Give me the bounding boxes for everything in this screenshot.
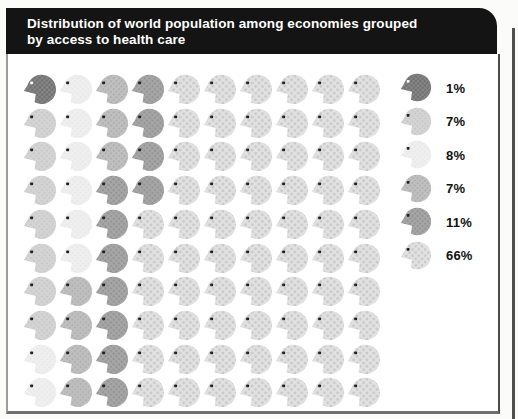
population-face-r5-c6 (203, 208, 237, 242)
population-face-r10-c6 (203, 376, 237, 410)
chart-title-bar: Distribution of world population among e… (6, 8, 497, 54)
legend-face-icon (400, 139, 432, 171)
legend: 1%7%8%7%11%66% (400, 54, 500, 344)
population-face-r4-c9 (311, 174, 345, 208)
population-face-r5-c10 (347, 208, 381, 242)
population-face-r4-c5 (167, 174, 201, 208)
population-face-r3-c6 (203, 140, 237, 174)
population-face-r1-c9 (311, 73, 345, 107)
population-face-r10-c3 (95, 376, 129, 410)
population-face-r10-c7 (239, 376, 273, 410)
population-face-r8-c5 (167, 309, 201, 343)
legend-label: 66% (446, 248, 473, 263)
population-face-r1-c7 (239, 73, 273, 107)
population-face-r9-c1 (23, 343, 57, 377)
population-face-r3-c10 (347, 140, 381, 174)
population-face-r1-c8 (275, 73, 309, 107)
population-face-r10-c4 (131, 376, 165, 410)
population-face-r2-c2 (59, 107, 93, 141)
population-face-r10-c8 (275, 376, 309, 410)
population-face-r2-c3 (95, 107, 129, 141)
population-face-r6-c3 (95, 242, 129, 276)
population-face-r6-c6 (203, 242, 237, 276)
population-face-r8-c2 (59, 309, 93, 343)
population-face-r3-c9 (311, 140, 345, 174)
population-face-r9-c4 (131, 343, 165, 377)
population-face-r3-c5 (167, 140, 201, 174)
population-face-r4-c4 (131, 174, 165, 208)
population-face-r5-c5 (167, 208, 201, 242)
population-face-r9-c7 (239, 343, 273, 377)
legend-face-icon (400, 72, 432, 104)
population-face-r4-c8 (275, 174, 309, 208)
population-face-r2-c8 (275, 107, 309, 141)
population-face-r1-c4 (131, 73, 165, 107)
population-face-r6-c10 (347, 242, 381, 276)
population-face-r1-c2 (59, 73, 93, 107)
legend-face-icon (400, 206, 432, 238)
population-face-r1-c10 (347, 73, 381, 107)
population-face-r1-c6 (203, 73, 237, 107)
population-face-r2-c9 (311, 107, 345, 141)
population-face-r7-c5 (167, 275, 201, 309)
population-face-r8-c3 (95, 309, 129, 343)
legend-label: 1% (446, 81, 465, 96)
population-face-r2-c6 (203, 107, 237, 141)
legend-entry-4: 7% (400, 172, 465, 206)
legend-face-icon (400, 240, 432, 272)
population-face-r7-c3 (95, 275, 129, 309)
population-face-r9-c6 (203, 343, 237, 377)
legend-label: 11% (446, 215, 472, 230)
population-face-r4-c3 (95, 174, 129, 208)
population-face-r6-c2 (59, 242, 93, 276)
population-face-r4-c1 (23, 174, 57, 208)
population-face-r10-c10 (347, 376, 381, 410)
population-face-r5-c1 (23, 208, 57, 242)
population-face-r5-c7 (239, 208, 273, 242)
population-face-r1-c5 (167, 73, 201, 107)
legend-label: 7% (446, 114, 465, 129)
population-face-r7-c6 (203, 275, 237, 309)
population-face-r4-c6 (203, 174, 237, 208)
population-face-r8-c1 (23, 309, 57, 343)
pictogram-grid (21, 54, 386, 414)
population-face-r5-c9 (311, 208, 345, 242)
legend-label: 8% (446, 148, 465, 163)
population-face-r9-c5 (167, 343, 201, 377)
population-face-r3-c1 (23, 140, 57, 174)
chart-body: 1%7%8%7%11%66% (6, 54, 500, 414)
population-face-r3-c4 (131, 140, 165, 174)
population-face-r8-c10 (347, 309, 381, 343)
population-face-r6-c5 (167, 242, 201, 276)
population-face-r2-c10 (347, 107, 381, 141)
population-face-r5-c2 (59, 208, 93, 242)
population-face-r3-c2 (59, 140, 93, 174)
population-face-r9-c2 (59, 343, 93, 377)
population-face-r1-c1 (23, 73, 57, 107)
legend-entry-1: 1% (400, 71, 465, 105)
legend-face-icon (400, 173, 432, 205)
population-face-r7-c4 (131, 275, 165, 309)
population-face-r5-c8 (275, 208, 309, 242)
population-face-r3-c3 (95, 140, 129, 174)
population-face-r10-c9 (311, 376, 345, 410)
population-face-r8-c4 (131, 309, 165, 343)
population-face-r8-c6 (203, 309, 237, 343)
population-face-r3-c7 (239, 140, 273, 174)
legend-entry-6: 66% (400, 239, 473, 273)
legend-face-icon (400, 106, 432, 138)
population-face-r2-c5 (167, 107, 201, 141)
chart-title-line2: by access to health care (27, 32, 487, 48)
population-face-r2-c4 (131, 107, 165, 141)
population-face-r10-c5 (167, 376, 201, 410)
population-face-r3-c8 (275, 140, 309, 174)
legend-entry-3: 8% (400, 138, 465, 172)
legend-entry-2: 7% (400, 105, 465, 139)
population-face-r1-c3 (95, 73, 129, 107)
population-face-r5-c4 (131, 208, 165, 242)
population-face-r6-c1 (23, 242, 57, 276)
population-face-r4-c7 (239, 174, 273, 208)
population-face-r5-c3 (95, 208, 129, 242)
population-face-r9-c9 (311, 343, 345, 377)
population-face-r7-c8 (275, 275, 309, 309)
